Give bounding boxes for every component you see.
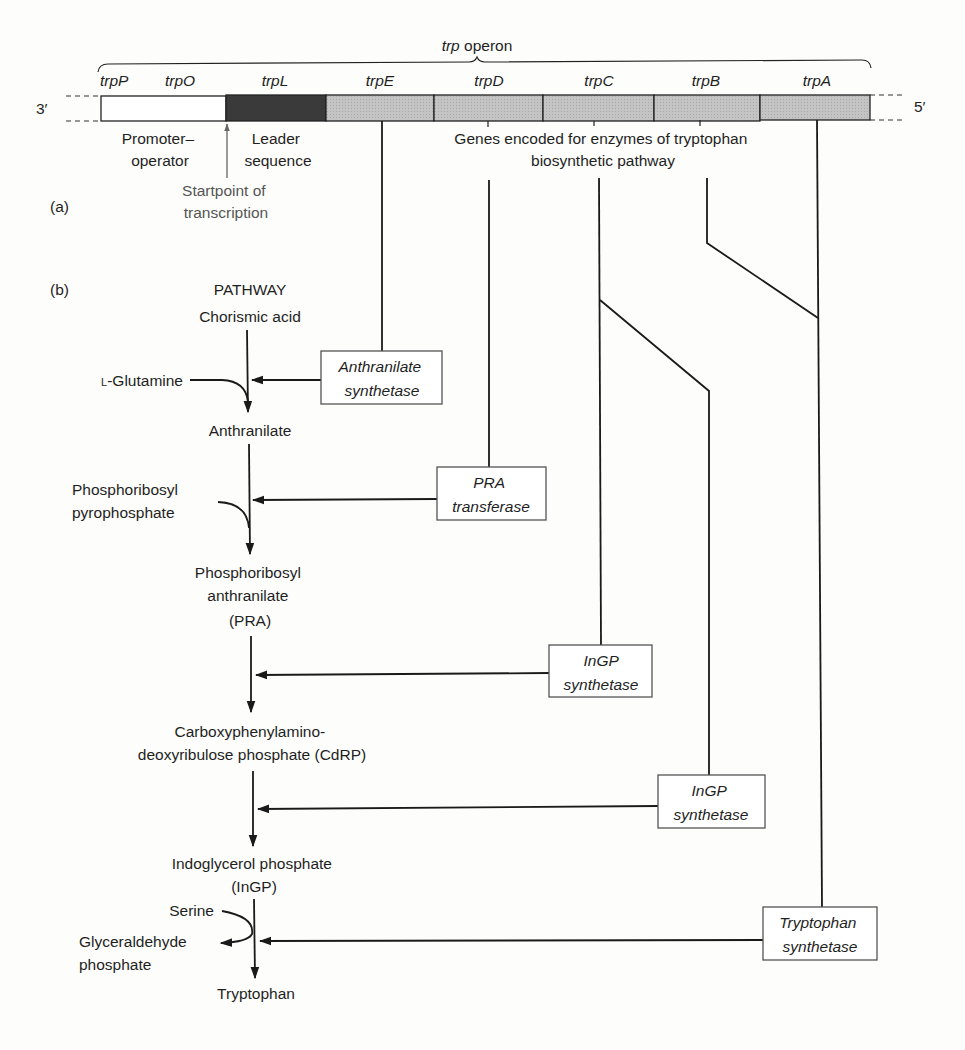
cosubstrate-g3p: Glyceraldehyde phosphate (79, 933, 191, 973)
connector-trpC-branch (600, 300, 709, 775)
label-trpD: trpD (474, 72, 503, 89)
trp-operon-diagram: trp operon trpP trpO trpL trpE trpD trpC… (0, 0, 965, 1050)
segment-promoter-operator (101, 96, 226, 121)
segment-trpA (760, 95, 870, 120)
connector-trpA (817, 120, 822, 907)
enzyme-anthranilate-synthetase: Anthranilate synthetase (321, 351, 442, 404)
enzyme-arrow-pra-transferase (253, 499, 437, 500)
connector-trpB (707, 178, 818, 318)
serine-g3p-curve (221, 911, 252, 943)
segment-trpE (326, 95, 434, 121)
dna-dash-left (66, 96, 101, 121)
label-trpE: trpE (366, 72, 395, 89)
segment-leader (226, 95, 326, 121)
panel-label-a: (a) (50, 198, 69, 215)
operon-brace (98, 57, 871, 72)
cosubstrate-serine: Serine (169, 902, 214, 919)
label-trpP: trpP (100, 72, 129, 89)
operon-title: trp operon (442, 37, 513, 54)
segment-trpD (434, 95, 543, 121)
label-trpO: trpO (165, 72, 195, 89)
dna-dash-right (870, 95, 905, 120)
metabolite-cdrp: Carboxyphenylamino- deoxyribulose phosph… (138, 723, 366, 763)
label-trpC: trpC (584, 72, 614, 89)
segment-trpC (543, 95, 654, 121)
glutamine-curve (190, 380, 248, 402)
label-trpA: trpA (803, 72, 831, 89)
enzyme-ingp-synthetase-2: InGP synthetase (658, 775, 765, 828)
caption-promoter-operator: Promoter– operator (122, 130, 199, 169)
end-5prime: 5′ (914, 98, 926, 115)
metabolite-tryptophan: Tryptophan (217, 985, 295, 1002)
step-arrow-5 (254, 899, 255, 978)
caption-genes-encoded: Genes encoded for enzymes of tryptophan … (454, 130, 751, 169)
caption-leader-sequence: Leader sequence (244, 130, 311, 169)
cosubstrate-glutamine: L-Glutamine (101, 372, 183, 389)
connector-trpC (599, 178, 601, 645)
metabolite-ingp: Indoglycerol phosphate (InGP) (172, 855, 337, 895)
panel-label-b: (b) (50, 281, 69, 298)
metabolite-anthranilate: Anthranilate (209, 422, 292, 439)
label-trpL: trpL (262, 72, 289, 89)
enzyme-arrow-ingp-synthetase-1 (256, 673, 549, 675)
segment-trpB (654, 95, 760, 121)
metabolite-chorismic-acid: Chorismic acid (199, 308, 301, 325)
enzyme-arrow-ingp-synthetase-2 (258, 806, 658, 809)
operon-map: trp operon trpP trpO trpL trpE trpD trpC… (36, 37, 926, 221)
caption-startpoint: Startpoint of transcription (182, 182, 270, 221)
metabolite-pra: Phosphoribosyl anthranilate (PRA) (195, 564, 305, 629)
enzyme-arrow-tryptophan-synthetase (260, 940, 763, 941)
pathway-heading: PATHWAY (214, 281, 287, 298)
end-3prime: 3′ (36, 100, 48, 117)
enzyme-tryptophan-synthetase: Tryptophan synthetase (763, 907, 877, 960)
step-arrow-2 (249, 444, 250, 554)
cosubstrate-prpp: Phosphoribosyl pyrophosphate (72, 481, 182, 521)
enzyme-pra-transferase: PRA transferase (437, 467, 546, 520)
label-trpB: trpB (692, 72, 720, 89)
enzyme-ingp-synthetase-1: InGP synthetase (549, 645, 652, 697)
prpp-curve (218, 502, 249, 528)
